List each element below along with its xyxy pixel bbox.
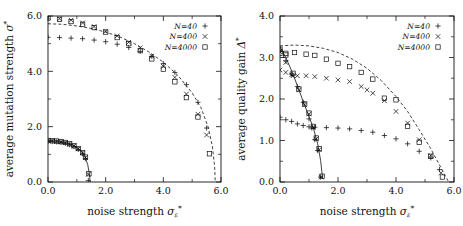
x-tick-label: 0.0 <box>40 185 55 196</box>
y-tick-label: 4.0 <box>27 66 42 77</box>
y-tick-label: 2.0 <box>258 93 273 104</box>
x-tick-label: 4.0 <box>388 185 403 196</box>
y-tick-label: 4.0 <box>258 10 273 21</box>
legend-label-0: N=40 <box>406 22 430 31</box>
y-tick-label: 6.0 <box>27 10 42 21</box>
legend-label-0: N=40 <box>173 22 197 31</box>
x-tick-label: 0.0 <box>272 185 287 196</box>
legend-label-1: N=400 <box>401 32 430 41</box>
y-axis-superscript: * <box>2 20 11 24</box>
y-axis-symbol: Δ <box>235 41 247 50</box>
figure-two-panel-scatter: 0.02.04.06.00.02.04.06.0N=40N=400N=4000n… <box>0 0 463 226</box>
x-tick-label: 2.0 <box>98 185 113 196</box>
y-tick-label: 2.0 <box>27 121 42 132</box>
y-tick-label: 3.0 <box>258 52 273 63</box>
x-axis-superscript: * <box>410 204 414 213</box>
x-tick-label: 4.0 <box>156 185 171 196</box>
x-tick-label: 2.0 <box>330 185 345 196</box>
legend-label-2: N=4000 <box>396 43 430 52</box>
right-plot-svg: 0.02.04.06.00.01.02.03.04.0N=40N=400N=40… <box>232 0 463 226</box>
y-tick-label: 1.0 <box>258 135 273 146</box>
x-axis-label: noise strength σε* <box>87 204 182 219</box>
y-tick-label: 0.0 <box>27 176 42 187</box>
panel-quality-gain: 0.02.04.06.00.01.02.03.04.0N=40N=400N=40… <box>232 0 463 226</box>
x-axis-label: noise strength σε* <box>319 204 414 219</box>
x-axis-superscript: * <box>178 204 182 213</box>
left-plot-svg: 0.02.04.06.00.02.04.06.0N=40N=400N=4000n… <box>0 0 231 226</box>
x-tick-label: 6.0 <box>213 185 228 196</box>
legend-label-1: N=400 <box>168 32 197 41</box>
x-tick-label: 6.0 <box>446 185 461 196</box>
y-axis-label: average quality gain Δ* <box>234 37 247 161</box>
legend-label-2: N=4000 <box>164 43 198 52</box>
y-tick-label: 0.0 <box>258 176 273 187</box>
y-axis-superscript: * <box>234 37 243 41</box>
panel-mutation-strength: 0.02.04.06.00.02.04.06.0N=40N=400N=4000n… <box>0 0 232 226</box>
y-axis-label: average mutation strength σ* <box>2 20 15 177</box>
